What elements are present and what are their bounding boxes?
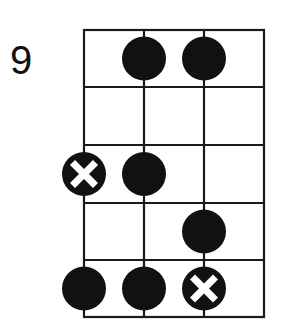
finger-dot [182, 210, 226, 254]
dot-circle [62, 267, 106, 311]
dot-circle [122, 152, 166, 196]
dot-circle [182, 37, 226, 81]
finger-dot [122, 267, 166, 311]
fretboard-frame [84, 30, 264, 317]
grid-lines [84, 30, 264, 317]
dot-circle [122, 37, 166, 81]
finger-dot [62, 267, 106, 311]
fretboard-grid [0, 0, 288, 327]
note-markers [62, 37, 226, 311]
finger-dot [122, 152, 166, 196]
finger-dot [122, 37, 166, 81]
dot-circle [122, 267, 166, 311]
dot-circle [182, 210, 226, 254]
root-note-x-marker [62, 152, 106, 196]
finger-dot [182, 37, 226, 81]
root-note-x-marker [182, 267, 226, 311]
